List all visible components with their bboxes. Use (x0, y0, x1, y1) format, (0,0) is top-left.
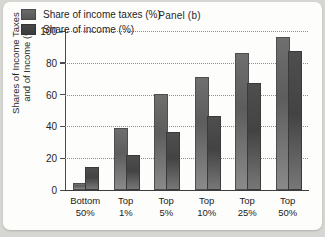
y-tick-mark (60, 190, 65, 191)
y-tick-mark (60, 158, 65, 159)
y-tick-mark (60, 126, 65, 127)
legend-label-income: Share of income (%) (43, 24, 134, 35)
x-tick-label: Top 1% (106, 195, 147, 218)
x-tick-label: Top 5% (146, 195, 187, 218)
legend-swatch-icon-income (21, 24, 36, 35)
y-tick-label: 0 (51, 185, 57, 196)
gridline (65, 95, 308, 96)
gridline (65, 126, 308, 127)
y-tick-mark (60, 94, 65, 95)
bar-income (85, 167, 99, 190)
bar-income (247, 83, 261, 190)
bar-income (166, 132, 180, 190)
bar-income (207, 116, 221, 190)
chart-legend: Share of income taxes (%) Share of incom… (21, 7, 161, 37)
x-tick-label: Top 25% (227, 195, 268, 218)
x-tick-label: Top 10% (187, 195, 228, 218)
plot-area: 020406080100 (65, 31, 308, 190)
x-axis-line (65, 190, 309, 191)
bar-income (126, 155, 140, 190)
legend-swatch-icon-taxes (21, 9, 36, 20)
y-tick-mark (60, 62, 65, 63)
legend-label-taxes: Share of income taxes (%) (43, 9, 161, 20)
gridline (65, 158, 308, 159)
y-tick-label: 20 (46, 153, 57, 164)
y-tick-label: 80 (46, 57, 57, 68)
bar-income (288, 51, 302, 190)
y-tick-label: 40 (46, 121, 57, 132)
figure-card: Panel (b) Shares of Income Taxes and of … (3, 2, 322, 230)
legend-item-taxes: Share of income taxes (%) (21, 7, 161, 22)
x-tick-label: Bottom 50% (65, 195, 106, 218)
y-tick-label: 60 (46, 89, 57, 100)
x-tick-label: Top 50% (268, 195, 309, 218)
gridline (65, 63, 308, 64)
legend-item-income: Share of income (%) (21, 22, 161, 37)
